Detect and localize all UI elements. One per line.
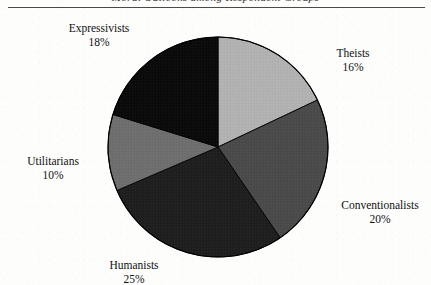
pie-label-expressivists: Expressivists 18% (47, 22, 151, 49)
pie-label-utilitarians-value: 10% (4, 169, 102, 183)
pie-label-theists-value: 16% (316, 61, 390, 75)
pie-label-conventionalists-value: 20% (330, 213, 430, 227)
pie-label-conventionalists-name: Conventionalists (330, 199, 430, 213)
pie-label-expressivists-name: Expressivists (47, 22, 151, 36)
pie-label-humanists-value: 25% (84, 273, 184, 285)
pie-label-humanists-name: Humanists (84, 259, 184, 273)
pie-label-conventionalists: Conventionalists 20% (330, 199, 430, 226)
running-head: Moral Outlooks among Respondent Groups (0, 0, 431, 3)
pie-texture (108, 37, 328, 257)
pie-label-theists: Theists 16% (316, 47, 390, 74)
pie-label-humanists: Humanists 25% (84, 259, 184, 285)
pie-label-theists-name: Theists (316, 47, 390, 61)
pie-label-utilitarians-name: Utilitarians (4, 155, 102, 169)
pie-chart: Expressivists 18% Theists 16% Convention… (0, 8, 431, 285)
pie-label-utilitarians: Utilitarians 10% (4, 155, 102, 182)
pie-label-expressivists-value: 18% (47, 36, 151, 50)
page-canvas: Moral Outlooks among Respondent Groups E… (0, 0, 431, 285)
